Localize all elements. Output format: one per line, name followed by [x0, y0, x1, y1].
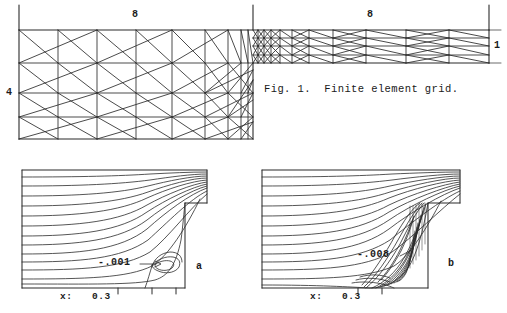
panel-label-a: a	[196, 262, 202, 272]
contour-panel-b	[0, 0, 507, 313]
contour-value-label-b: -.008	[357, 250, 390, 260]
dimension-label-downstream-length: 8	[367, 10, 373, 20]
axis-prefix-b: x:	[310, 292, 322, 302]
figure-caption: Fig. 1. Finite element grid.	[264, 84, 458, 95]
axis-prefix-a: x:	[60, 292, 72, 302]
panel-label-b: b	[448, 259, 454, 269]
axis-tick-label-b: 0.3	[342, 292, 361, 302]
figure-root: 8 8 4 1 Fig. 1. Finite element grid. -.0…	[0, 0, 507, 313]
dimension-label-upstream-length: 8	[132, 10, 138, 20]
dimension-label-downstream-height: 1	[494, 41, 500, 51]
contour-value-label-a: -.001	[98, 258, 131, 268]
dimension-label-upstream-height: 4	[6, 88, 12, 98]
axis-tick-label-a: 0.3	[92, 292, 111, 302]
